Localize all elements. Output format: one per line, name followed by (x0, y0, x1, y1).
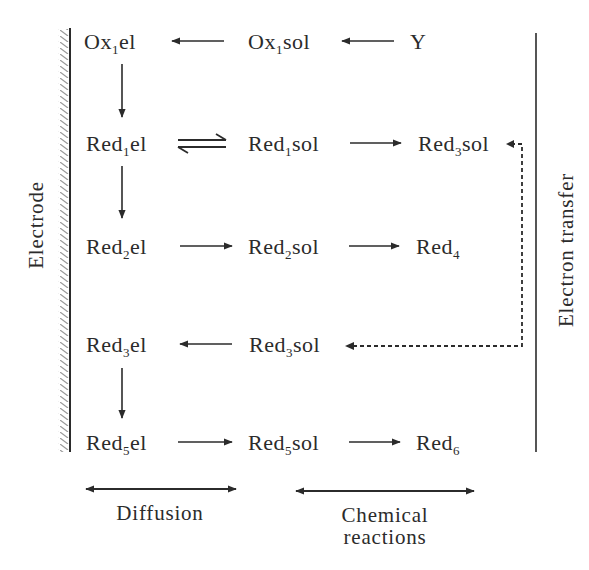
species-red3sol-top: Red3sol (418, 133, 489, 155)
diagram-lines (0, 0, 589, 570)
equilibrium-arrow-red1 (178, 134, 226, 153)
species-red6: Red6 (416, 432, 460, 454)
reaction-scheme-diagram: Electrode Electron transfer Ox1el Ox1sol… (0, 0, 589, 570)
species-red3sol: Red3sol (249, 334, 320, 356)
species-red5sol: Red5sol (248, 432, 319, 454)
species-red1el: Red1el (86, 133, 147, 155)
species-red2el: Red2el (86, 236, 147, 258)
species-red5el: Red5el (86, 432, 147, 454)
electrode-label: Electrode (26, 181, 47, 269)
species-red4: Red4 (416, 236, 460, 258)
chemical-reactions-line1: Chemical (342, 504, 429, 526)
chemical-reactions-line2: reactions (342, 526, 429, 548)
species-y: Y (410, 31, 426, 53)
species-red3el: Red3el (86, 334, 147, 356)
species-red1sol: Red1sol (248, 133, 319, 155)
species-ox1sol: Ox1sol (248, 31, 310, 53)
chemical-reactions-label: Chemical reactions (342, 504, 429, 548)
species-red2sol: Red2sol (248, 236, 319, 258)
electrode-surface (58, 28, 70, 452)
diffusion-label: Diffusion (116, 502, 203, 524)
electron-transfer-label: Electron transfer (556, 173, 577, 327)
species-ox1el: Ox1el (84, 31, 136, 53)
